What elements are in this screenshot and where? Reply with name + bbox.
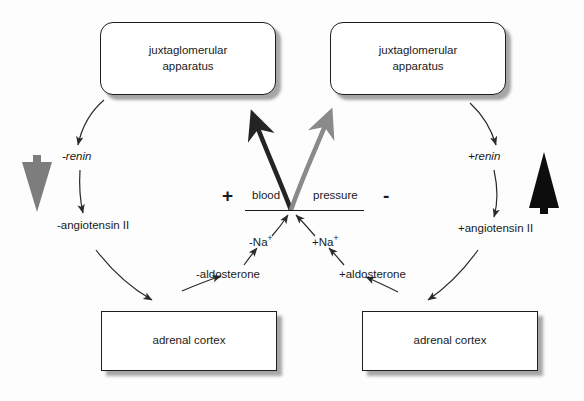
blood-pressure-underline xyxy=(245,210,364,211)
up-arrow-black-icon xyxy=(529,152,559,214)
label-sodium-left-text: -Na xyxy=(249,236,268,248)
label-sodium-right: +Na+ xyxy=(312,233,338,248)
label-renin-left: -renin xyxy=(62,150,91,162)
pressure-label: pressure xyxy=(313,189,358,201)
node-label-line2: apparatus xyxy=(392,60,443,72)
blood-label: blood xyxy=(252,189,280,201)
node-label-line1: juxtaglomerular xyxy=(149,44,228,56)
label-angiotensin-left: -angiotensin II xyxy=(57,219,129,231)
label-sodium-left-sup: + xyxy=(268,233,273,243)
node-label: juxtaglomerular apparatus xyxy=(379,43,458,74)
arrow-angiotensin-to-adrenal-left xyxy=(96,250,152,300)
node-adrenal-cortex-right[interactable]: adrenal cortex xyxy=(362,311,538,371)
minus-sign-right: - xyxy=(383,186,389,205)
node-juxtaglomerular-apparatus-left[interactable]: juxtaglomerular apparatus xyxy=(100,22,276,95)
arrow-aldosterone-to-sodium-right xyxy=(329,248,344,265)
label-sodium-right-sup: + xyxy=(333,233,338,243)
node-label-line2: apparatus xyxy=(162,60,213,72)
node-label-line1: juxtaglomerular xyxy=(379,44,458,56)
label-aldosterone-right: +aldosterone xyxy=(339,268,406,280)
node-label: adrenal cortex xyxy=(153,333,226,349)
arrow-renin-to-angiotensin-left xyxy=(80,170,83,213)
arrow-renin-to-angiotensin-right xyxy=(494,170,497,217)
diagram-canvas: juxtaglomerular apparatus juxtaglomerula… xyxy=(0,0,584,401)
node-juxtaglomerular-apparatus-right[interactable]: juxtaglomerular apparatus xyxy=(330,22,506,95)
arrow-angiotensin-to-adrenal-right xyxy=(428,250,478,300)
label-aldosterone-left: -aldosterone xyxy=(196,268,260,280)
node-label: adrenal cortex xyxy=(414,333,487,349)
arrow-aldosterone-to-sodium-left xyxy=(244,248,257,265)
label-renin-right: +renin xyxy=(468,150,500,162)
label-sodium-right-text: +Na xyxy=(312,236,333,248)
arrow-jga-right-to-renin xyxy=(470,103,496,145)
label-angiotensin-right: +angiotensin II xyxy=(458,222,533,234)
plus-sign-left: + xyxy=(222,186,233,205)
node-label: juxtaglomerular apparatus xyxy=(149,43,228,74)
down-arrow-gray-icon xyxy=(22,155,52,212)
node-adrenal-cortex-left[interactable]: adrenal cortex xyxy=(101,311,277,371)
arrow-jga-left-to-renin xyxy=(78,100,104,145)
label-sodium-left: -Na+ xyxy=(249,233,273,248)
arrow-sodium-to-pressure-left xyxy=(272,215,288,236)
